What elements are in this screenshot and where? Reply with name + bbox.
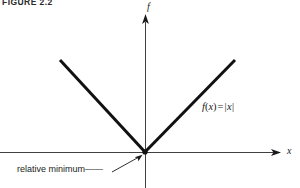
formula-equals: =: [217, 101, 223, 112]
figure-caption: FIGURE 2.2: [2, 0, 53, 7]
annotation-leader-line: [112, 157, 139, 172]
annotation-dash: ——: [85, 164, 103, 174]
figure-container: FIGURE 2.2 f x f(x) = |x| relative minim…: [0, 0, 300, 188]
curve-left-arm: [60, 60, 145, 152]
figure-canvas: [0, 0, 300, 188]
vertex-point: [142, 149, 147, 154]
annotation-arrow-icon: [135, 155, 143, 162]
function-formula-label: f(x) = |x|: [202, 101, 234, 112]
formula-right-bar: |: [232, 101, 235, 112]
y-axis-label: f: [147, 1, 150, 12]
formula-inner: x: [227, 101, 232, 112]
x-axis-label: x: [287, 145, 291, 156]
relative-minimum-annotation: relative minimum——: [17, 164, 103, 174]
annotation-label: relative minimum: [17, 164, 85, 174]
